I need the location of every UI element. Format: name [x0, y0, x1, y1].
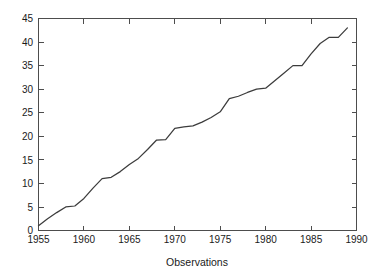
x-tick-label-1955: 1955	[27, 234, 50, 245]
x-tick-label-1980: 1980	[255, 234, 278, 245]
y-tick-label-25: 25	[22, 107, 34, 118]
x-tick-label-1985: 1985	[300, 234, 323, 245]
x-tick-label-1990: 1990	[345, 234, 368, 245]
x-tick-labels: 1955 1960 1965 1970 1975 1980 1985 1990	[27, 234, 368, 245]
line-chart: 0 5 10 15 20 25 30 35 40 45 1955 1960 19…	[0, 0, 379, 278]
x-tick-label-1965: 1965	[118, 234, 141, 245]
x-axis-title: Observations	[166, 256, 228, 268]
x-tick-label-1960: 1960	[73, 234, 96, 245]
data-series-line	[39, 28, 348, 226]
x-tick-label-1975: 1975	[209, 234, 232, 245]
y-tick-label-40: 40	[22, 37, 34, 48]
chart-figure: 0 5 10 15 20 25 30 35 40 45 1955 1960 19…	[0, 0, 379, 278]
y-tick-label-35: 35	[22, 60, 34, 71]
y-tick-label-15: 15	[22, 155, 34, 166]
x-tick-label-1970: 1970	[164, 234, 187, 245]
y-tick-label-20: 20	[22, 131, 34, 142]
y-tick-label-10: 10	[22, 178, 34, 189]
y-tick-label-30: 30	[22, 84, 34, 95]
y-tick-label-5: 5	[27, 202, 33, 213]
y-tick-label-45: 45	[22, 13, 34, 24]
y-tick-labels: 0 5 10 15 20 25 30 35 40 45	[22, 13, 34, 236]
